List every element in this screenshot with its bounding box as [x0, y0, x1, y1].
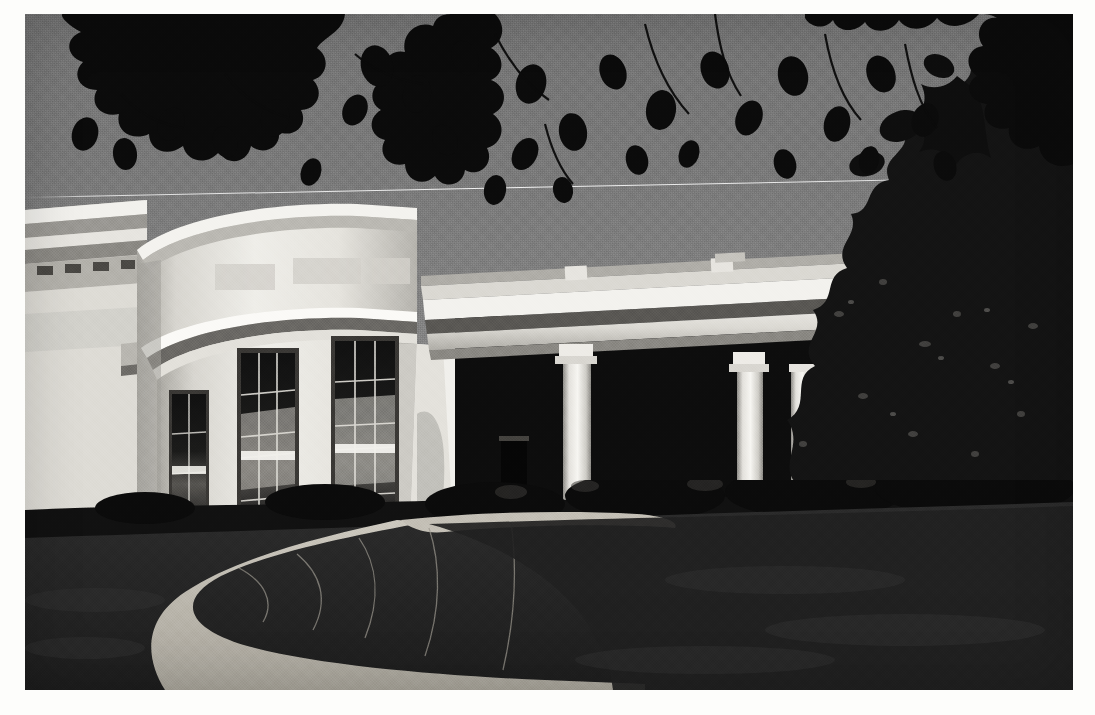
photograph [25, 14, 1073, 690]
photo-page: White House West Wing Oval Office exteri… [0, 0, 1095, 715]
ground-group [25, 480, 1073, 690]
